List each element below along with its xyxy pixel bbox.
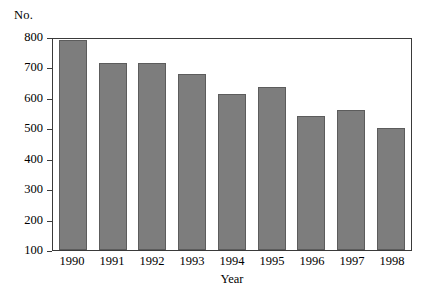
- y-axis-tick-layer: 800700600500400300200100: [0, 38, 52, 251]
- bar-1992: [138, 63, 166, 250]
- x-axis-tick-label: 1991: [92, 253, 132, 269]
- x-axis-tick-label: 1992: [132, 253, 172, 269]
- y-axis-tick-label: 600: [24, 91, 43, 106]
- x-axis-tick-label: 1995: [252, 253, 292, 269]
- bar-chart-figure: No. 800700600500400300200100 19901991199…: [0, 0, 428, 298]
- bar-1993: [178, 74, 206, 250]
- x-axis-tick-label: 1996: [292, 253, 332, 269]
- bar-1990: [59, 40, 87, 250]
- x-axis-tick-label: 1993: [172, 253, 212, 269]
- y-axis-tick-label: 500: [24, 121, 43, 136]
- x-axis-title: Year: [52, 271, 412, 287]
- bar-1998: [377, 128, 405, 250]
- bar-1997: [337, 110, 365, 250]
- bar-1995: [258, 87, 286, 250]
- x-axis-tick-label: 1994: [212, 253, 252, 269]
- y-axis-tick-label: 300: [24, 182, 43, 197]
- y-axis-tick-mark: [47, 251, 52, 252]
- y-axis-tick-label: 700: [24, 60, 43, 75]
- bar-1991: [99, 63, 127, 250]
- bars-layer: [53, 39, 411, 250]
- bar-1994: [218, 94, 246, 250]
- y-axis-tick-label: 400: [24, 152, 43, 167]
- x-axis-tick-label: 1998: [372, 253, 412, 269]
- x-axis-tick-label: 1997: [332, 253, 372, 269]
- x-axis-tick-layer: 199019911992199319941995199619971998: [52, 253, 412, 271]
- y-axis-tick-label: 200: [24, 213, 43, 228]
- x-axis-tick-label: 1990: [52, 253, 92, 269]
- y-axis-tick-label: 100: [24, 243, 43, 258]
- plot-area: [52, 38, 412, 251]
- bar-1996: [297, 116, 325, 250]
- y-axis-unit-label: No.: [14, 8, 33, 22]
- y-axis-tick-label: 800: [24, 30, 43, 45]
